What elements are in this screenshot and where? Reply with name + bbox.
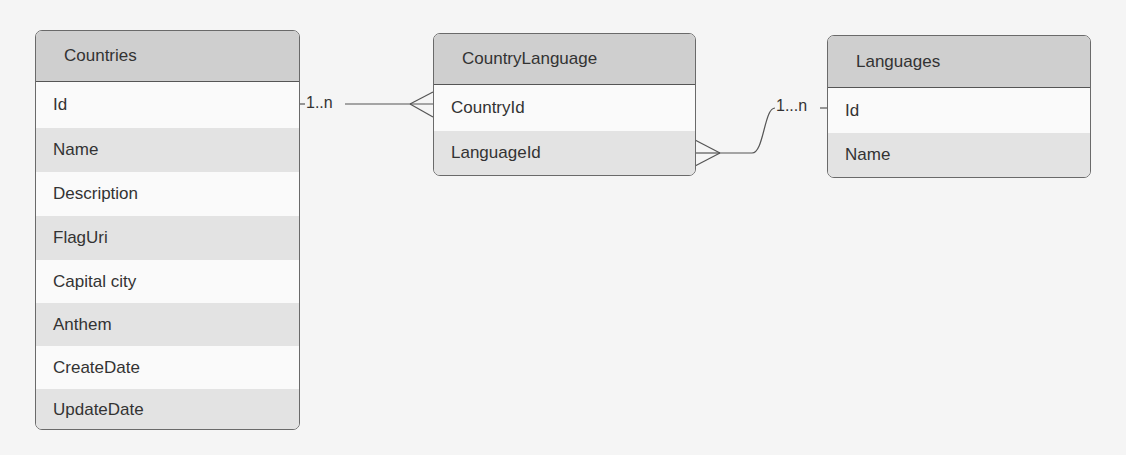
entity-title: Languages [828,36,1090,88]
entity-languages[interactable]: Languages Id Name [827,35,1091,178]
field-createdate[interactable]: CreateDate [36,346,299,389]
field-id[interactable]: Id [828,88,1090,133]
entity-title: CountryLanguage [434,34,695,85]
field-countryid[interactable]: CountryId [434,85,695,131]
field-name[interactable]: Name [36,128,299,172]
field-anthem[interactable]: Anthem [36,303,299,346]
field-flaguri[interactable]: FlagUri [36,216,299,260]
entity-countries[interactable]: Countries Id Name Description FlagUri Ca… [35,30,300,430]
field-id[interactable]: Id [36,82,299,128]
cardinality-label-languages: 1...n [776,98,807,114]
field-languageid[interactable]: LanguageId [434,131,695,175]
relationship-line-countrylanguage-languages[interactable] [695,108,827,166]
entity-countrylanguage[interactable]: CountryLanguage CountryId LanguageId [433,33,696,176]
field-capital-city[interactable]: Capital city [36,260,299,303]
field-description[interactable]: Description [36,172,299,216]
field-updatedate[interactable]: UpdateDate [36,389,299,430]
cardinality-label-countries: 1..n [306,95,333,111]
field-name[interactable]: Name [828,133,1090,177]
entity-title: Countries [36,31,299,82]
